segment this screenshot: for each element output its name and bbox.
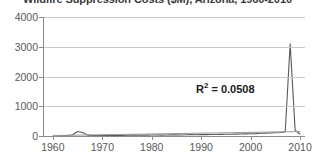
y-axis-tick-label: 2000 xyxy=(0,72,38,82)
y-axis-tick-label: 3000 xyxy=(0,42,38,52)
y-axis-line xyxy=(43,17,44,136)
x-axis-tick-label: 2010 xyxy=(280,142,315,153)
y-axis-tick-label: 1000 xyxy=(0,101,38,111)
x-axis-tick-mark xyxy=(251,136,252,140)
gridline xyxy=(43,77,305,78)
x-axis-tick-mark xyxy=(152,136,153,140)
chart-title: Wildfire Suppression Costs ($M), Arizona… xyxy=(0,0,315,7)
plot-area xyxy=(43,17,305,136)
x-axis-tick-label: 1970 xyxy=(82,142,122,153)
y-axis-tick-mark xyxy=(39,47,43,48)
x-axis-tick-mark xyxy=(102,136,103,140)
gridline xyxy=(43,106,305,107)
y-axis-tick-mark xyxy=(39,17,43,18)
y-axis-tick-label: 0 xyxy=(0,131,38,141)
x-axis-tick-mark xyxy=(201,136,202,140)
x-axis-tick-label: 2000 xyxy=(231,142,271,153)
gridline xyxy=(43,47,305,48)
x-axis-tick-mark xyxy=(53,136,54,140)
y-axis-tick-mark xyxy=(39,77,43,78)
x-axis-tick-mark xyxy=(300,136,301,140)
x-axis-line xyxy=(43,136,305,137)
r2-symbol: R xyxy=(196,83,204,95)
y-axis-tick-mark xyxy=(39,136,43,137)
x-axis-tick-label: 1990 xyxy=(181,142,221,153)
r-squared-annotation: R2 = 0.0508 xyxy=(196,81,255,95)
y-axis-tick-label: 4000 xyxy=(0,12,38,22)
y-axis-tick-mark xyxy=(39,106,43,107)
r2-value: = 0.0508 xyxy=(208,83,254,95)
chart-container: Wildfire Suppression Costs ($M), Arizona… xyxy=(0,0,315,166)
gridline xyxy=(43,17,305,18)
x-axis-tick-label: 1980 xyxy=(132,142,172,153)
series-data xyxy=(53,44,300,136)
x-axis-tick-label: 1960 xyxy=(33,142,73,153)
